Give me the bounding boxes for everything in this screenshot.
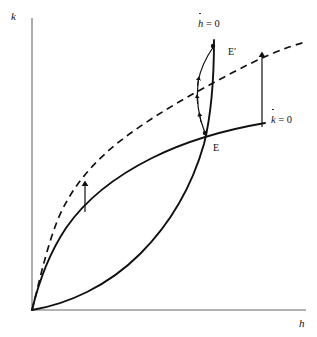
- phase-diagram-canvas: [0, 0, 317, 337]
- kdot-nullcline-initial-curve: [32, 123, 265, 310]
- h-dot-variable: h: [198, 19, 203, 30]
- transition-arrowhead-3: [198, 79, 199, 86]
- kdot-nullcline-shifted-curve: [32, 42, 306, 310]
- y-axis-label: k: [11, 11, 16, 22]
- kdot-nullcline-label: k = 0: [271, 115, 292, 126]
- kdot-nullcline-equals: = 0: [276, 114, 292, 125]
- hdot-nullcline-label: h = 0: [198, 19, 220, 30]
- equilibrium-label-E: E: [213, 143, 219, 153]
- x-axis-label: h: [299, 318, 305, 329]
- transition-arrowhead-2: [197, 97, 198, 104]
- transition-arrowhead-1: [200, 115, 201, 122]
- equilibrium-label-E-prime: E′: [228, 47, 236, 57]
- equilibrium-point-E-prime: [211, 44, 215, 48]
- hdot-nullcline-equals: = 0: [203, 18, 219, 29]
- k-dot-variable-letter: k: [271, 114, 276, 125]
- equilibrium-point-E: [203, 131, 207, 135]
- phase-diagram-figure: k h h = 0 k = 0 E E′: [0, 0, 317, 337]
- h-dot-variable-letter: h: [198, 18, 203, 29]
- k-dot-variable: k: [271, 115, 276, 126]
